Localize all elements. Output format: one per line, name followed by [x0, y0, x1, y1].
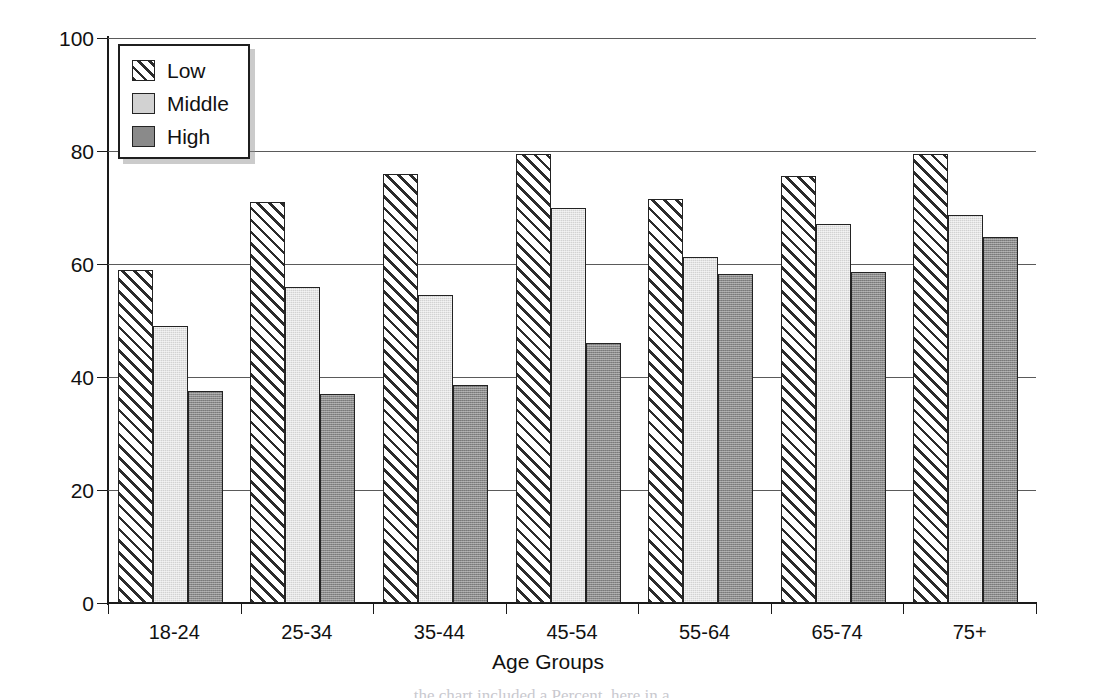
x-axis-title: Age Groups	[0, 650, 1096, 674]
bar-35-44-middle	[418, 295, 453, 603]
bar-55-64-high	[718, 274, 753, 603]
x-tick-mark	[506, 603, 507, 614]
legend-swatch-low-icon	[132, 60, 155, 81]
bar-65-74-low	[781, 176, 816, 603]
bar-75+-low	[913, 154, 948, 603]
y-tick-mark	[97, 151, 108, 152]
bar-18-24-middle	[153, 326, 188, 603]
caption-fragment: the chart included a Percent, here in a.…	[0, 686, 1096, 698]
x-tick-label-65-74: 65-74	[812, 622, 863, 642]
legend-label-high: High	[167, 126, 210, 147]
bar-25-34-low	[250, 202, 285, 603]
y-tick-mark	[97, 377, 108, 378]
legend-item-low: Low	[132, 54, 248, 87]
bar-65-74-high	[851, 272, 886, 603]
x-tick-label-55-64: 55-64	[679, 622, 730, 642]
legend-label-middle: Middle	[167, 93, 229, 114]
legend-swatch-middle-icon	[132, 93, 155, 114]
legend-item-high: High	[132, 120, 248, 153]
x-tick-mark	[241, 603, 242, 614]
bar-45-54-low	[516, 154, 551, 603]
bar-18-24-low	[118, 270, 153, 603]
bar-45-54-high	[586, 343, 621, 603]
x-tick-label-25-34: 25-34	[281, 622, 332, 642]
y-tick-label: 40	[71, 367, 94, 388]
x-tick-mark	[771, 603, 772, 614]
legend-label-low: Low	[167, 60, 206, 81]
bar-18-24-high	[188, 391, 223, 603]
bar-75+-middle	[948, 215, 983, 603]
gridline	[108, 38, 1036, 39]
x-tick-mark	[1036, 603, 1037, 614]
legend-swatch-high-icon	[132, 126, 155, 147]
bar-35-44-low	[383, 174, 418, 603]
x-tick-mark	[638, 603, 639, 614]
legend: Low Middle High	[118, 44, 250, 159]
y-tick-mark	[97, 603, 108, 604]
bar-35-44-high	[453, 385, 488, 603]
y-tick-label: 100	[59, 28, 94, 49]
y-tick-label: 80	[71, 141, 94, 162]
x-tick-label-35-44: 35-44	[414, 622, 465, 642]
y-tick-mark	[97, 38, 108, 39]
x-tick-mark	[373, 603, 374, 614]
y-tick-mark	[97, 490, 108, 491]
x-tick-label-45-54: 45-54	[546, 622, 597, 642]
bar-45-54-middle	[551, 208, 586, 604]
x-tick-label-75+: 75+	[953, 622, 987, 642]
y-tick-label: 20	[71, 480, 94, 501]
x-tick-mark	[903, 603, 904, 614]
y-tick-mark	[97, 264, 108, 265]
x-tick-mark	[108, 603, 109, 614]
y-tick-label: 0	[82, 593, 94, 614]
legend-item-middle: Middle	[132, 87, 248, 120]
bar-55-64-low	[648, 199, 683, 603]
y-tick-label: 60	[71, 254, 94, 275]
bar-25-34-high	[320, 394, 355, 603]
bar-65-74-middle	[816, 224, 851, 603]
bar-25-34-middle	[285, 287, 320, 603]
bar-75+-high	[983, 237, 1018, 603]
bar-55-64-middle	[683, 257, 718, 603]
x-tick-label-18-24: 18-24	[149, 622, 200, 642]
